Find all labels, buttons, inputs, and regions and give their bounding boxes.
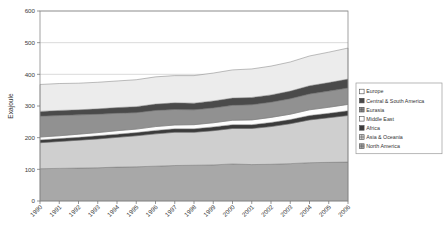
legend-item-africa[interactable]: Africa [360,125,380,131]
xtick-label-2006: 2006 [337,203,352,218]
legend-label-asia-oceania: Asia & Oceania [366,134,403,140]
legend-swatch-europe [360,89,365,94]
xtick-label-1990: 1990 [29,203,44,218]
chart-legend[interactable]: EuropeCentral & South AmericaEurasiaMidd… [356,83,442,154]
y-axis: 0100200300400500600 [25,7,40,204]
legend-item-north-america[interactable]: North America [360,143,400,149]
xtick-label-1992: 1992 [67,203,82,218]
xtick-label-1995: 1995 [125,203,140,218]
ytick-label-200: 200 [25,134,36,141]
legend-swatch-africa [360,126,365,131]
legend-label-africa: Africa [366,125,380,131]
legend-swatch-central-south-america [360,98,365,103]
xtick-label-2003: 2003 [279,203,294,218]
xtick-label-2000: 2000 [221,203,236,218]
legend-label-north-america: North America [366,143,400,149]
y-axis-label: Exajoule [7,93,15,119]
ytick-label-100: 100 [25,166,36,173]
xtick-label-2005: 2005 [317,203,332,218]
area-bands [40,48,348,201]
legend-label-eurasia: Eurasia [366,107,384,113]
xtick-label-1993: 1993 [86,203,101,218]
xtick-label-1994: 1994 [106,203,121,218]
x-axis: 1990199119921993199419951996199719981999… [29,201,352,218]
ytick-label-400: 400 [25,71,36,78]
legend-item-central-south-america[interactable]: Central & South America [360,98,425,104]
xtick-label-2001: 2001 [240,203,255,218]
ytick-label-300: 300 [25,102,36,109]
xtick-label-1997: 1997 [163,203,178,218]
ytick-label-500: 500 [25,39,36,46]
xtick-label-1996: 1996 [144,203,159,218]
legend-label-middle-east: Middle East [366,116,394,122]
legend-item-asia-oceania[interactable]: Asia & Oceania [360,134,403,140]
legend-item-europe[interactable]: Europe [360,88,384,94]
xtick-label-2004: 2004 [298,203,313,218]
legend-item-eurasia[interactable]: Eurasia [360,107,385,113]
legend-swatch-middle-east [360,117,365,122]
legend-label-europe: Europe [366,88,383,94]
xtick-label-1991: 1991 [48,203,63,218]
chart-container: 0100200300400500600 19901991199219931994… [0,0,444,249]
xtick-label-1999: 1999 [202,203,217,218]
stacked-area-chart: 0100200300400500600 19901991199219931994… [0,0,444,249]
ytick-label-600: 600 [25,7,36,14]
ytick-label-0: 0 [32,197,36,204]
legend-label-central-south-america: Central & South America [366,98,424,104]
xtick-label-1998: 1998 [183,203,198,218]
xtick-label-2002: 2002 [260,203,275,218]
y-axis-title: Exajoule [7,93,15,119]
